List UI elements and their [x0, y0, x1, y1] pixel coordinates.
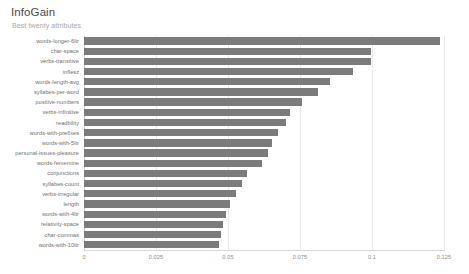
- chart-container: InfoGain Best twenty attributes words-lo…: [0, 0, 469, 274]
- bar-row: length: [84, 199, 444, 209]
- bar-row: words-fememine: [84, 158, 444, 168]
- y-axis-category-label: words-fememine: [0, 158, 79, 168]
- y-axis-category-label: words-with-4ltr: [0, 209, 79, 219]
- bar-row: syllabes-count: [84, 179, 444, 189]
- bar-row: verbs-transitive: [84, 56, 444, 66]
- bar-row: relativity-space: [84, 219, 444, 229]
- bar: [84, 37, 440, 44]
- bar-row: readbility: [84, 118, 444, 128]
- bar: [84, 160, 262, 167]
- y-axis-category-label: readbility: [0, 118, 79, 128]
- y-axis-category-label: words-with-10ltr: [0, 240, 79, 250]
- bar: [84, 129, 278, 136]
- y-axis-category-label: length: [0, 199, 79, 209]
- bar-row: words-length-avg: [84, 77, 444, 87]
- y-axis-category-label: verbs-infinitive: [0, 107, 79, 117]
- plot-area: words-longer-6ltrchar-spaceverbs-transit…: [84, 36, 444, 250]
- y-axis-category-label: words-length-avg: [0, 77, 79, 87]
- bar: [84, 200, 230, 207]
- bar-row: inflesz: [84, 67, 444, 77]
- y-axis-category-label: verbs-transitive: [0, 56, 79, 66]
- bar-row: conjunctions: [84, 168, 444, 178]
- bar: [84, 98, 302, 105]
- bar-row: positive-numbers: [84, 97, 444, 107]
- bar: [84, 48, 371, 55]
- chart-subtitle: Best twenty attributes: [12, 22, 81, 29]
- x-axis-tick-label: 0.1: [368, 254, 376, 260]
- y-axis-category-label: verbs-irregular: [0, 189, 79, 199]
- bar: [84, 221, 223, 228]
- bar-row: char-commas: [84, 230, 444, 240]
- x-axis-tick-label: 0.075: [293, 254, 308, 260]
- bar: [84, 109, 290, 116]
- x-axis-tick-label: 0.125: [437, 254, 452, 260]
- bar: [84, 180, 242, 187]
- bar: [84, 241, 219, 248]
- bar-row: words-longer-6ltr: [84, 36, 444, 46]
- bar-row: words-with-5ltr: [84, 138, 444, 148]
- bar: [84, 68, 353, 75]
- bar: [84, 78, 330, 85]
- y-axis-category-label: char-space: [0, 46, 79, 56]
- y-axis-category-label: personal-issues-pleasure: [0, 148, 79, 158]
- bar: [84, 139, 272, 146]
- gridline: [444, 36, 445, 250]
- bar-row: personal-issues-pleasure: [84, 148, 444, 158]
- y-axis-category-label: words-with-5ltr: [0, 138, 79, 148]
- y-axis-category-label: positive-numbers: [0, 97, 79, 107]
- bar-row: verbs-irregular: [84, 189, 444, 199]
- bar: [84, 211, 226, 218]
- y-axis-category-label: inflesz: [0, 67, 79, 77]
- bar: [84, 170, 247, 177]
- x-axis-tick-label: 0.05: [222, 254, 233, 260]
- y-axis-category-label: syllabes-count: [0, 179, 79, 189]
- bar-row: words-with-4ltr: [84, 209, 444, 219]
- bar: [84, 119, 286, 126]
- bar: [84, 231, 221, 238]
- chart-title: InfoGain: [11, 6, 55, 18]
- bar-row: words-with-prefixes: [84, 128, 444, 138]
- bar: [84, 149, 268, 156]
- bar: [84, 58, 371, 65]
- y-axis-category-label: conjunctions: [0, 168, 79, 178]
- bar-row: char-space: [84, 46, 444, 56]
- bar-row: verbs-infinitive: [84, 107, 444, 117]
- y-axis-category-label: relativity-space: [0, 219, 79, 229]
- y-axis-category-label: words-with-prefixes: [0, 128, 79, 138]
- bar: [84, 88, 318, 95]
- y-axis-category-label: syllabes-per-word: [0, 87, 79, 97]
- bar-row: syllabes-per-word: [84, 87, 444, 97]
- x-axis-tick-label: 0.025: [149, 254, 164, 260]
- bar: [84, 190, 236, 197]
- x-axis-tick-label: 0: [82, 254, 85, 260]
- x-axis-line: [84, 250, 445, 251]
- y-axis-category-label: words-longer-6ltr: [0, 36, 79, 46]
- bar-row: words-with-10ltr: [84, 240, 444, 250]
- y-axis-category-label: char-commas: [0, 230, 79, 240]
